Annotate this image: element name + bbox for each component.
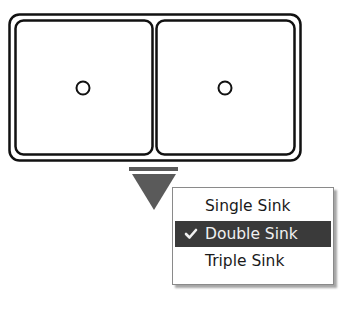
triangle-down-icon[interactable]: [129, 167, 178, 210]
menu-item-label: Triple Sink: [205, 252, 284, 270]
menu-item-triple-sink[interactable]: Triple Sink: [175, 248, 331, 274]
menu-item-single-sink[interactable]: Single Sink: [175, 193, 331, 219]
menu-item-label: Single Sink: [205, 197, 291, 215]
checkmark-icon: [183, 221, 199, 247]
menu-item-double-sink[interactable]: Double Sink: [175, 221, 331, 247]
sink-type-menu: Single Sink Double Sink Triple Sink: [172, 187, 334, 285]
menu-item-label: Double Sink: [205, 225, 298, 243]
drain-icon: [219, 82, 232, 95]
drain-icon: [77, 82, 90, 95]
